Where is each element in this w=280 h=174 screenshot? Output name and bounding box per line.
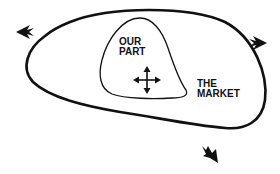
arrow-left-icon	[16, 25, 34, 39]
move-icon	[133, 66, 161, 94]
our-part-outline	[100, 18, 187, 99]
market-diagram: OUR PART THE MARKET	[0, 0, 280, 174]
our-part-line2: PART	[119, 47, 145, 57]
the-market-line2: MARKET	[197, 89, 240, 99]
our-part-label: OUR PART	[119, 37, 145, 57]
arrow-down-right-icon	[202, 146, 218, 163]
the-market-label: THE MARKET	[197, 79, 240, 99]
